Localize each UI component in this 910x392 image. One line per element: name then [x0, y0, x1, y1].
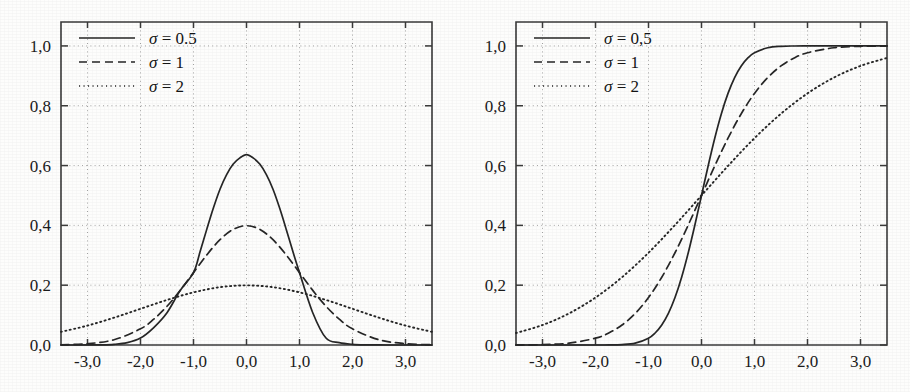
plot-panel-pdf: 0,00,20,40,60,81,0 -3,0-2,0-1,00,01,02,0… — [0, 0, 455, 392]
legend-label-sigma-2: σ = 2 — [149, 77, 184, 96]
pdf-tickmarks — [61, 22, 432, 345]
pdf-gridlines — [61, 22, 432, 345]
x-tick-label: -2,0 — [582, 352, 609, 371]
y-tick-label: 0,2 — [485, 276, 506, 295]
pdf-axes-frame — [61, 22, 432, 345]
x-tick-label: 3,0 — [395, 352, 416, 371]
legend-label-sigma-0.5: σ = 0.5 — [149, 29, 197, 48]
y-tick-label: 0,8 — [30, 97, 51, 116]
pdf-legend: σ = 0.5σ = 1σ = 2 — [79, 29, 197, 96]
pdf-svg: 0,00,20,40,60,81,0 -3,0-2,0-1,00,01,02,0… — [0, 0, 455, 392]
y-tick-label: 0,0 — [485, 336, 506, 355]
cdf-plot-frame — [516, 22, 887, 345]
x-tick-label: -1,0 — [635, 352, 662, 371]
cdf-tickmarks — [516, 22, 887, 345]
x-tick-label: -3,0 — [529, 352, 556, 371]
pdf-y-tick-labels: 0,00,20,40,60,81,0 — [30, 37, 52, 355]
x-tick-label: 2,0 — [797, 352, 818, 371]
y-tick-label: 1,0 — [485, 37, 506, 56]
plot-panel-cdf: 0,00,20,40,60,81,0 -3,0-2,0-1,00,01,02,0… — [455, 0, 910, 392]
y-tick-label: 0,2 — [30, 276, 51, 295]
x-tick-label: -3,0 — [74, 352, 101, 371]
cdf-svg: 0,00,20,40,60,81,0 -3,0-2,0-1,00,01,02,0… — [455, 0, 910, 392]
cdf-y-tick-labels: 0,00,20,40,60,81,0 — [485, 37, 507, 355]
y-tick-label: 1,0 — [30, 37, 51, 56]
legend-label-sigma-0.5: σ = 0,5 — [604, 29, 652, 48]
x-tick-label: 3,0 — [850, 352, 871, 371]
legend-label-sigma-1: σ = 1 — [604, 53, 639, 72]
pdf-x-tick-labels: -3,0-2,0-1,00,01,02,03,0 — [74, 352, 416, 371]
x-tick-label: 1,0 — [289, 352, 310, 371]
legend-label-sigma-1: σ = 1 — [149, 53, 184, 72]
pdf-plot-frame — [61, 22, 432, 345]
x-tick-label: 0,0 — [691, 352, 712, 371]
y-tick-label: 0,6 — [30, 157, 51, 176]
cdf-axes-frame — [516, 22, 887, 345]
cdf-gridlines — [516, 22, 887, 345]
legend-label-sigma-2: σ = 2 — [604, 77, 639, 96]
cdf-x-tick-labels: -3,0-2,0-1,00,01,02,03,0 — [529, 352, 871, 371]
y-tick-label: 0,8 — [485, 97, 506, 116]
figure-two-gaussian-plots: 0,00,20,40,60,81,0 -3,0-2,0-1,00,01,02,0… — [0, 0, 910, 392]
y-tick-label: 0,0 — [30, 336, 51, 355]
x-tick-label: -1,0 — [180, 352, 207, 371]
x-tick-label: -2,0 — [127, 352, 154, 371]
x-tick-label: 1,0 — [744, 352, 765, 371]
cdf-legend: σ = 0,5σ = 1σ = 2 — [534, 29, 652, 96]
y-tick-label: 0,4 — [30, 216, 52, 235]
y-tick-label: 0,6 — [485, 157, 506, 176]
x-tick-label: 2,0 — [342, 352, 363, 371]
x-tick-label: 0,0 — [236, 352, 257, 371]
y-tick-label: 0,4 — [485, 216, 507, 235]
